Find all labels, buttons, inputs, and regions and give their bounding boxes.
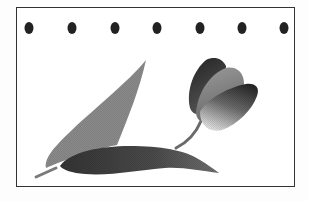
dot (238, 22, 247, 34)
dot (196, 22, 205, 34)
dot (280, 22, 289, 34)
dot (111, 22, 120, 34)
tulip-illustration (0, 0, 309, 201)
tulip-stem (176, 121, 201, 148)
dot (25, 22, 34, 34)
dot (68, 22, 77, 34)
dot-row (25, 22, 289, 34)
illustration-canvas (0, 0, 309, 201)
tulip-flower (189, 58, 258, 131)
dot (153, 22, 162, 34)
